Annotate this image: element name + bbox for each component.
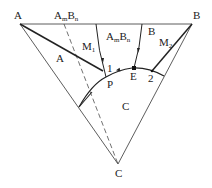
- boundary-ambn-b: [134, 24, 142, 68]
- side-ac: [20, 24, 118, 164]
- point-e-label: E: [130, 70, 137, 82]
- vertex-b-label: B: [193, 9, 200, 21]
- point-m2-label: M2: [159, 36, 173, 50]
- point-1-label: 1: [107, 62, 113, 74]
- region-ambn-label: AmBn: [106, 30, 131, 44]
- region-c-label: C: [122, 100, 129, 112]
- point-m1-label: M1: [82, 40, 96, 54]
- ternary-phase-diagram: A B C AmBn A B C AmBn M1 M2 1 2 P E: [0, 0, 212, 188]
- region-b-label: B: [148, 25, 155, 37]
- compound-label-top: AmBn: [54, 9, 79, 23]
- vertex-c-label: C: [115, 167, 122, 179]
- arrow-icon: [137, 48, 140, 53]
- point-p-label: P: [107, 78, 113, 90]
- region-a-label: A: [56, 52, 64, 64]
- side-bc: [118, 24, 192, 164]
- point-2-label: 2: [148, 72, 154, 84]
- vertex-a-label: A: [14, 9, 22, 21]
- tie-segment: [79, 92, 92, 107]
